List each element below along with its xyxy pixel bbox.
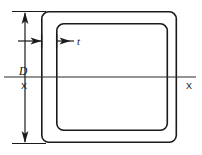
thickness-label: t [77, 36, 81, 47]
engineering-drawing-figure: D t X X [0, 0, 202, 155]
axis-label-right: X [186, 81, 192, 91]
depth-label: D [18, 65, 28, 77]
axis-label-left: X [21, 81, 27, 91]
section-drawing-svg: D t X X [0, 0, 202, 155]
